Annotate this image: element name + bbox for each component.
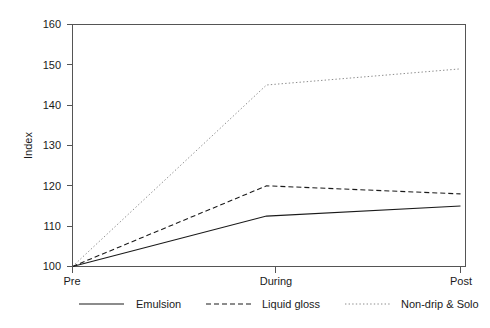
y-tick-label-120: 120 — [43, 180, 61, 192]
series-group — [73, 69, 461, 267]
plot-frame — [73, 25, 466, 267]
y-axis-ticks — [67, 25, 73, 267]
legend-label-non-drip-solo: Non-drip & Solo — [401, 298, 479, 310]
x-tick-label-post: Post — [450, 275, 472, 287]
x-axis-tick-labels: Pre During Post — [63, 275, 472, 287]
chart-canvas: 100 110 120 130 140 150 160 Index Pre Du… — [0, 0, 490, 328]
y-tick-label-130: 130 — [43, 139, 61, 151]
series-line-emulsion — [73, 206, 461, 267]
legend-item-non-drip-solo: Non-drip & Solo — [345, 298, 479, 310]
x-tick-label-pre: Pre — [63, 275, 80, 287]
y-tick-label-160: 160 — [43, 18, 61, 30]
x-tick-label-during: During — [260, 275, 292, 287]
chart-legend: Emulsion Liquid gloss Non-drip & Solo — [79, 298, 479, 310]
y-axis-tick-labels: 100 110 120 130 140 150 160 — [43, 18, 61, 272]
y-tick-label-150: 150 — [43, 59, 61, 71]
y-tick-label-140: 140 — [43, 99, 61, 111]
legend-label-liquid-gloss: Liquid gloss — [262, 298, 321, 310]
series-line-non-drip-solo — [73, 69, 461, 267]
series-line-liquid-gloss — [73, 186, 461, 267]
x-axis-ticks — [73, 267, 461, 273]
y-tick-label-100: 100 — [43, 260, 61, 272]
y-tick-label-110: 110 — [43, 220, 61, 232]
legend-label-emulsion: Emulsion — [136, 298, 181, 310]
y-axis-title: Index — [22, 132, 34, 159]
legend-item-emulsion: Emulsion — [79, 298, 181, 310]
legend-item-liquid-gloss: Liquid gloss — [206, 298, 321, 310]
line-chart: 100 110 120 130 140 150 160 Index Pre Du… — [0, 0, 490, 328]
